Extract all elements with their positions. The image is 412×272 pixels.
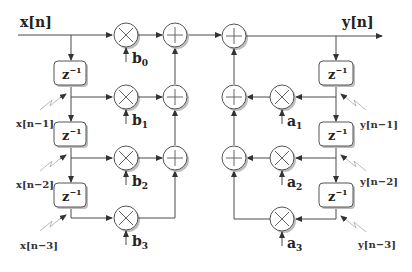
svg-text:a1: a1 xyxy=(287,113,302,131)
multiplier-a2: a2 xyxy=(270,146,302,192)
delay-box-left-3: z−1 xyxy=(54,183,88,209)
feedforward-wires xyxy=(138,35,221,218)
multiplier-b0: b0 xyxy=(114,23,148,68)
svg-text:y[n−2]: y[n−2] xyxy=(359,176,398,187)
adder-ff-0 xyxy=(163,23,189,49)
input-line: x[n] xyxy=(18,14,112,35)
svg-text:y[n−3]: y[n−3] xyxy=(357,239,396,250)
delay-box-right-3: z−1 xyxy=(319,183,355,209)
delay-box-right-1: z−1 xyxy=(319,61,355,87)
svg-text:a3: a3 xyxy=(287,235,302,253)
svg-text:a2: a2 xyxy=(287,174,302,192)
svg-text:x[n−3]: x[n−3] xyxy=(20,240,58,251)
svg-text:b0: b0 xyxy=(132,50,148,68)
svg-text:b1: b1 xyxy=(132,112,148,130)
svg-text:b2: b2 xyxy=(132,173,148,191)
signal-label-y-n-3: y[n−3] xyxy=(341,216,396,250)
multiplier-b3: b3 xyxy=(114,206,148,251)
signal-label-y-n-2: y[n−2] xyxy=(341,155,398,187)
multiplier-b2: b2 xyxy=(114,146,148,191)
adder-fb-1 xyxy=(222,85,248,111)
svg-text:b3: b3 xyxy=(132,233,148,251)
adder-output xyxy=(222,24,248,50)
adder-fb-2 xyxy=(222,146,248,172)
delay-box-left-2: z−1 xyxy=(54,122,88,148)
feedback-wires xyxy=(234,49,270,219)
signal-label-x-n-3: x[n−3] xyxy=(20,215,66,251)
multiplier-a3: a3 xyxy=(270,207,302,253)
adder-ff-2 xyxy=(163,146,189,172)
delay-box-right-2: z−1 xyxy=(319,122,355,148)
svg-text:y[n−1]: y[n−1] xyxy=(359,119,398,130)
delay-box-left-1: z−1 xyxy=(54,61,88,87)
adder-ff-1 xyxy=(163,85,189,111)
iir-filter-diagram: x[n] z−1 z−1 z−1 x[n−1] x[n−2] xyxy=(0,0,412,272)
multiplier-a1: a1 xyxy=(270,85,302,131)
output-line: y[n] xyxy=(246,14,382,36)
input-label: x[n] xyxy=(20,14,52,30)
multiplier-b1: b1 xyxy=(114,85,148,130)
output-label: y[n] xyxy=(341,14,374,30)
svg-text:x[n−2]: x[n−2] xyxy=(16,179,54,190)
svg-text:x[n−1]: x[n−1] xyxy=(16,118,54,129)
